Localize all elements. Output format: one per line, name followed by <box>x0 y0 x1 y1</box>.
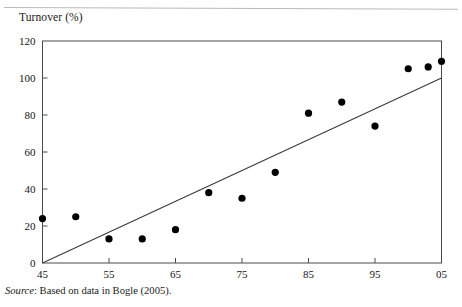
source-text: : Based on data in Bogle (2005). <box>34 285 171 296</box>
y-axis-tick-label: 100 <box>19 72 36 84</box>
source-label: Source <box>5 285 34 296</box>
data-point <box>405 65 412 72</box>
data-point <box>172 226 179 233</box>
data-point <box>72 213 79 220</box>
x-axis-tick-label: 65 <box>170 268 182 280</box>
data-point <box>139 235 146 242</box>
y-axis-tick-label: 0 <box>30 257 36 269</box>
data-point <box>205 189 212 196</box>
plot-area: 02040608010012045556575859505 <box>0 0 462 307</box>
x-axis-tick-label: 95 <box>370 268 382 280</box>
data-point <box>338 98 345 105</box>
data-point <box>371 123 378 130</box>
x-axis-tick-label: 85 <box>303 268 315 280</box>
x-axis-tick-label: 05 <box>436 268 448 280</box>
y-axis-tick-label: 40 <box>25 183 37 195</box>
data-point <box>425 63 432 70</box>
y-axis-tick-label: 20 <box>25 220 37 232</box>
source-caption: Source: Based on data in Bogle (2005). <box>5 285 171 296</box>
y-axis-tick-label: 120 <box>19 35 36 47</box>
y-axis-tick-label: 60 <box>25 146 37 158</box>
trend-line <box>43 78 442 263</box>
data-point <box>272 169 279 176</box>
scatter-chart: 02040608010012045556575859505 <box>0 0 462 307</box>
data-point <box>305 110 312 117</box>
x-axis-tick-label: 75 <box>237 268 249 280</box>
data-point <box>105 235 112 242</box>
data-point <box>39 215 46 222</box>
x-axis-tick-label: 55 <box>104 268 116 280</box>
y-axis-tick-label: 80 <box>25 109 37 121</box>
data-point <box>438 58 445 65</box>
plot-frame <box>43 41 442 263</box>
figure-container: Turnover (%) 020406080100120455565758595… <box>0 0 462 307</box>
x-axis-tick-label: 45 <box>37 268 49 280</box>
data-point <box>238 195 245 202</box>
